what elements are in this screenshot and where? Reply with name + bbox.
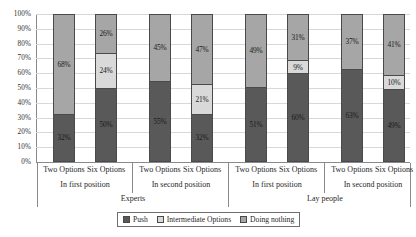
legend-label: Intermediate Options <box>167 215 231 224</box>
population-group-labels: ExpertsLay people <box>36 194 410 208</box>
bar-segment-label: 26% <box>99 30 112 37</box>
category-label: Six Options <box>267 165 329 174</box>
bar[interactable]: 47%21%32% <box>191 14 213 162</box>
legend-label: Doing nothing <box>250 215 294 224</box>
bar-segment-doing-nothing[interactable]: 37% <box>342 15 362 69</box>
bar-segment-intermediate-options[interactable]: 9% <box>288 60 308 73</box>
gridline <box>36 162 410 163</box>
population-group-label: Lay people <box>275 194 375 203</box>
bar-segment-doing-nothing[interactable]: 41% <box>384 15 404 75</box>
legend-item[interactable]: Push <box>123 215 148 224</box>
y-tick-label: 10% <box>18 143 31 151</box>
bar-segment-push[interactable]: 51% <box>246 87 266 161</box>
bar-segment-label: 51% <box>249 121 262 128</box>
bar-segment-doing-nothing[interactable]: 49% <box>246 15 266 87</box>
category-axis-labels: Two OptionsSix OptionsTwo OptionsSix Opt… <box>36 165 410 179</box>
bar-segment-label: 49% <box>249 47 262 54</box>
bar-segment-label: 50% <box>99 121 112 128</box>
bar-segment-push[interactable]: 32% <box>54 114 74 161</box>
legend-swatch-icon <box>240 216 247 223</box>
bar-segment-doing-nothing[interactable]: 47% <box>192 15 212 84</box>
category-label: Six Options <box>75 165 137 174</box>
bar-segment-label: 55% <box>153 118 166 125</box>
bar-segment-label: 31% <box>291 34 304 41</box>
legend-label: Push <box>133 215 148 224</box>
bar[interactable]: 37%63% <box>341 14 363 162</box>
bar-segment-label: 49% <box>387 122 400 129</box>
bar-segment-push[interactable]: 63% <box>342 69 362 161</box>
bar-segment-label: 32% <box>195 134 208 141</box>
bar-segment-label: 60% <box>291 114 304 121</box>
bars-layer: 68%32%26%24%50%45%55%47%21%32%49%51%31%9… <box>36 14 410 162</box>
position-group-label: In first position <box>40 180 130 189</box>
bar-segment-push[interactable]: 49% <box>384 89 404 161</box>
legend-swatch-icon <box>157 216 164 223</box>
stacked-bar-chart: 100%90%80%70%60%50%40%30%20%10%0% 68%32%… <box>0 0 416 237</box>
y-tick-label: 70% <box>18 54 31 62</box>
category-label: Six Options <box>171 165 233 174</box>
bar-segment-push[interactable]: 55% <box>150 81 170 161</box>
bar-segment-doing-nothing[interactable]: 68% <box>54 15 74 114</box>
y-tick-label: 90% <box>18 25 31 33</box>
bar[interactable]: 26%24%50% <box>95 14 117 162</box>
bar[interactable]: 41%10%49% <box>383 14 405 162</box>
legend-swatch-icon <box>123 216 130 223</box>
bar-segment-label: 45% <box>153 44 166 51</box>
position-group-labels: In first positionIn second positionIn fi… <box>36 180 410 194</box>
bar-segment-label: 63% <box>345 112 358 119</box>
y-axis: 100%90%80%70%60%50%40%30%20%10%0% <box>0 14 34 162</box>
position-group-label: In first position <box>232 180 322 189</box>
bar[interactable]: 49%51% <box>245 14 267 162</box>
population-group-label: Experts <box>83 194 183 203</box>
y-tick-label: 60% <box>18 69 31 77</box>
y-tick-label: 80% <box>18 40 31 48</box>
y-tick-label: 100% <box>14 10 31 18</box>
bar-segment-label: 21% <box>195 96 208 103</box>
bar-segment-label: 32% <box>57 134 70 141</box>
y-tick-label: 40% <box>18 99 31 107</box>
position-group-label: In second position <box>136 180 226 189</box>
category-label: Six Options <box>363 165 416 174</box>
bar[interactable]: 68%32% <box>53 14 75 162</box>
bar-segment-label: 24% <box>99 67 112 74</box>
legend-item[interactable]: Intermediate Options <box>157 215 231 224</box>
legend-item[interactable]: Doing nothing <box>240 215 294 224</box>
bar-segment-label: 41% <box>387 41 400 48</box>
bar-segment-push[interactable]: 32% <box>192 114 212 161</box>
y-tick-label: 20% <box>18 128 31 136</box>
bar-segment-intermediate-options[interactable]: 24% <box>96 53 116 88</box>
bar-segment-label: 9% <box>293 64 303 71</box>
plot-area: 68%32%26%24%50%45%55%47%21%32%49%51%31%9… <box>36 14 410 162</box>
y-tick-label: 0% <box>21 158 31 166</box>
bar[interactable]: 45%55% <box>149 14 171 162</box>
bar-segment-label: 68% <box>57 61 70 68</box>
position-group-label: In second position <box>328 180 416 189</box>
bar-segment-label: 10% <box>387 79 400 86</box>
bar-segment-intermediate-options[interactable]: 10% <box>384 75 404 90</box>
bar-segment-doing-nothing[interactable]: 31% <box>288 15 308 60</box>
y-tick-label: 50% <box>18 84 31 92</box>
bar-segment-intermediate-options[interactable]: 21% <box>192 84 212 115</box>
bar-segment-doing-nothing[interactable]: 45% <box>150 15 170 81</box>
chart-legend: PushIntermediate OptionsDoing nothing <box>117 212 300 227</box>
y-tick-label: 30% <box>18 114 31 122</box>
bar-segment-push[interactable]: 50% <box>96 88 116 161</box>
bar[interactable]: 31%9%60% <box>287 14 309 162</box>
bar-segment-label: 37% <box>345 38 358 45</box>
bar-segment-doing-nothing[interactable]: 26% <box>96 15 116 53</box>
bar-segment-label: 47% <box>195 46 208 53</box>
bar-segment-push[interactable]: 60% <box>288 73 308 161</box>
